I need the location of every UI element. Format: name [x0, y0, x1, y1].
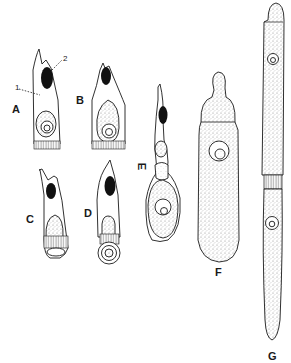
granule: [41, 67, 53, 89]
label-a: A: [12, 104, 20, 115]
panel-c-cell: [39, 169, 68, 258]
label-b: B: [76, 95, 84, 106]
panel-e-cell: [146, 84, 180, 242]
cell-diagram: [0, 0, 291, 363]
label-f: F: [215, 267, 222, 278]
label-d: D: [84, 208, 92, 219]
panel-g-cell: [262, 3, 284, 340]
annotation-1: 1: [15, 84, 19, 92]
label-g: G: [268, 351, 277, 362]
label-c: C: [26, 214, 34, 225]
panel-f-cell: [198, 72, 239, 262]
label-e: E: [136, 163, 147, 170]
panel-b-cell: [92, 63, 125, 149]
panel-d-cell: [97, 160, 120, 264]
annotation-2: 2: [63, 55, 67, 63]
panel-a-cell: [19, 49, 62, 149]
